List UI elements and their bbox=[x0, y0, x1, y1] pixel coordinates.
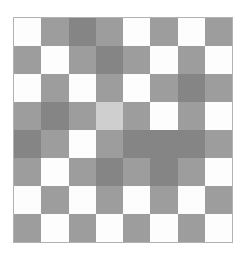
heatmap-cell bbox=[150, 158, 177, 186]
heatmap-cell bbox=[41, 74, 68, 102]
heatmap-cell bbox=[123, 18, 150, 46]
heatmap-cell bbox=[14, 130, 41, 158]
heatmap-cell bbox=[14, 74, 41, 102]
heatmap-cell bbox=[178, 46, 205, 74]
heatmap-cell bbox=[178, 74, 205, 102]
heatmap-cell bbox=[96, 186, 123, 214]
heatmap-cell bbox=[14, 18, 41, 46]
heatmap-cell bbox=[205, 18, 232, 46]
heatmap-cell bbox=[178, 102, 205, 130]
heatmap-cell bbox=[123, 102, 150, 130]
heatmap-cell bbox=[150, 18, 177, 46]
heatmap-cell bbox=[69, 18, 96, 46]
heatmap-cell bbox=[123, 74, 150, 102]
heatmap-cell bbox=[96, 46, 123, 74]
heatmap-cell bbox=[205, 102, 232, 130]
heatmap-cell bbox=[123, 214, 150, 242]
heatmap-cell bbox=[14, 214, 41, 242]
heatmap-cell bbox=[178, 158, 205, 186]
heatmap-cell bbox=[69, 186, 96, 214]
heatmap-cell bbox=[205, 158, 232, 186]
heatmap-cell bbox=[41, 186, 68, 214]
heatmap-cell bbox=[150, 74, 177, 102]
heatmap-cell bbox=[178, 130, 205, 158]
heatmap-cell bbox=[69, 74, 96, 102]
heatmap-cell bbox=[123, 46, 150, 74]
heatmap-cell bbox=[96, 74, 123, 102]
heatmap-cell bbox=[205, 186, 232, 214]
heatmap-cell bbox=[178, 18, 205, 46]
heatmap-cell bbox=[69, 214, 96, 242]
heatmap-cell bbox=[69, 158, 96, 186]
heatmap-cell bbox=[14, 102, 41, 130]
heatmap-cell bbox=[14, 186, 41, 214]
heatmap-cell bbox=[178, 214, 205, 242]
heatmap-cell bbox=[123, 186, 150, 214]
figure-canvas bbox=[0, 0, 246, 256]
heatmap-cell bbox=[41, 102, 68, 130]
heatmap-cell bbox=[14, 158, 41, 186]
heatmap-cell bbox=[96, 214, 123, 242]
heatmap-cell bbox=[41, 18, 68, 46]
heatmap-cell bbox=[205, 214, 232, 242]
heatmap-cell bbox=[150, 214, 177, 242]
heatmap-cell bbox=[150, 46, 177, 74]
heatmap-cell bbox=[41, 158, 68, 186]
heatmap-cell bbox=[96, 158, 123, 186]
heatmap-cell bbox=[69, 46, 96, 74]
heatmap-cell bbox=[123, 130, 150, 158]
heatmap-cell bbox=[205, 46, 232, 74]
heatmap-cell bbox=[69, 102, 96, 130]
heatmap-cell bbox=[41, 46, 68, 74]
heatmap-plot-area bbox=[13, 17, 233, 243]
heatmap-cell bbox=[123, 158, 150, 186]
heatmap-cell bbox=[150, 186, 177, 214]
heatmap-cell bbox=[150, 102, 177, 130]
heatmap-grid bbox=[14, 18, 232, 242]
heatmap-cell bbox=[41, 214, 68, 242]
heatmap-cell bbox=[205, 130, 232, 158]
heatmap-cell bbox=[96, 18, 123, 46]
heatmap-cell bbox=[205, 74, 232, 102]
heatmap-cell bbox=[96, 130, 123, 158]
heatmap-cell bbox=[14, 46, 41, 74]
heatmap-cell bbox=[69, 130, 96, 158]
heatmap-cell bbox=[41, 130, 68, 158]
heatmap-cell bbox=[150, 130, 177, 158]
heatmap-cell bbox=[178, 186, 205, 214]
heatmap-cell bbox=[96, 102, 123, 130]
